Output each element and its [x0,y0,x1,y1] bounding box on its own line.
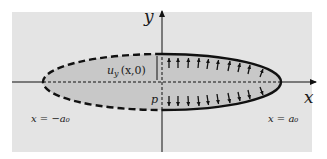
pressure-label: p [151,93,158,106]
y-axis-label: y [143,6,154,26]
displacement-symbol: u [107,64,114,77]
displacement-subscript: y [113,69,119,78]
left-vertex-label: x = −a₀ [31,113,70,124]
diagram-svg: y x uy(x,0) p x = −a₀ x = a₀ [0,0,327,159]
displacement-label: uy(x,0) [107,64,146,78]
right-vertex-label: x = a₀ [268,113,298,124]
displacement-args: (x,0) [121,64,146,77]
crack-opening-diagram: y x uy(x,0) p x = −a₀ x = a₀ [0,0,327,159]
x-axis-label: x [304,87,314,107]
